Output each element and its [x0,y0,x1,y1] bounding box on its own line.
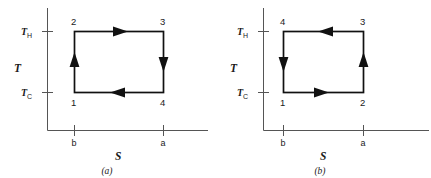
tick-label-tc-sub: C [27,93,32,100]
arrow-left-up-a [70,52,80,67]
panel-caption-a: (a) [101,166,112,177]
arrow-right-up-b [359,52,369,67]
tick-label-tc-sub: C [243,93,248,100]
x-axis-label: S [115,150,121,162]
tick-label-tc: TC [237,87,248,100]
tick-label-th-sub: H [27,32,32,39]
carnot-cycle-path-b [284,32,364,93]
corner-label-bottom-right-a: 4 [160,97,165,108]
tick-label-th-sub: H [243,32,248,39]
axes-lines [264,8,430,131]
tick-label-b: b [72,138,77,148]
carnot-cycle-path-a [75,32,164,93]
tick-label-th: TH [21,26,32,39]
arrow-left-down-b [279,57,289,72]
tick-label-a: a [161,138,166,148]
arrow-bottom-right-b [314,88,329,98]
panel-a: T S TH TC b a 2 3 1 4 [0,0,215,178]
arrow-bottom-left-a [110,88,125,98]
arrow-top-right-a [113,27,128,37]
panel-caption-b: (b) [314,166,325,177]
ts-diagram-figure: T S TH TC b a 2 3 1 4 [0,0,431,178]
tick-label-a: a [361,138,366,148]
tick-label-b: b [281,138,286,148]
arrow-top-left-b [318,27,333,37]
corner-label-top-left-a: 2 [71,16,76,27]
corner-label-top-right-b: 3 [360,16,365,27]
y-axis-label: T [14,62,22,74]
arrow-right-down-a [159,57,169,72]
corner-label-bottom-right-b: 2 [360,97,365,108]
corner-label-bottom-left-b: 1 [280,97,285,108]
panel-b: T S TH TC b a 4 3 1 2 [216,0,431,178]
x-axis-label: S [320,150,326,162]
corner-label-top-right-a: 3 [160,16,165,27]
corner-label-bottom-left-a: 1 [71,97,76,108]
tick-label-th: TH [237,26,248,39]
y-axis-label: T [230,62,238,74]
corner-label-top-left-b: 4 [280,16,285,27]
tick-label-tc: TC [21,87,32,100]
